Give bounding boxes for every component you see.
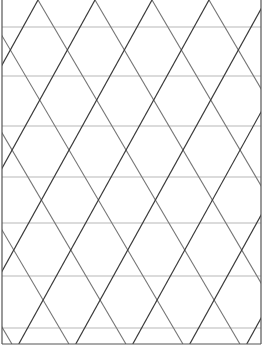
diagonal-line-light [0,0,69,344]
diagonal-lines-dark [0,0,264,344]
lattice-svg [0,0,264,356]
diagonal-line-light [0,0,183,344]
diamond-lattice-pattern [0,0,264,356]
diagonal-line-dark [76,0,264,344]
diagonal-line-light [95,0,264,344]
diagonal-line-light [152,0,264,344]
diagonal-line-light [38,0,240,344]
diagonal-line-dark [0,0,152,344]
diagonal-line-light [209,0,264,344]
diagonal-line-light [0,0,126,344]
frame-border [2,0,261,344]
diagonal-line-dark [0,0,38,344]
horizontal-gridlines [2,27,261,328]
diagonal-line-dark [19,0,209,344]
diagonal-lines-light [0,0,264,344]
